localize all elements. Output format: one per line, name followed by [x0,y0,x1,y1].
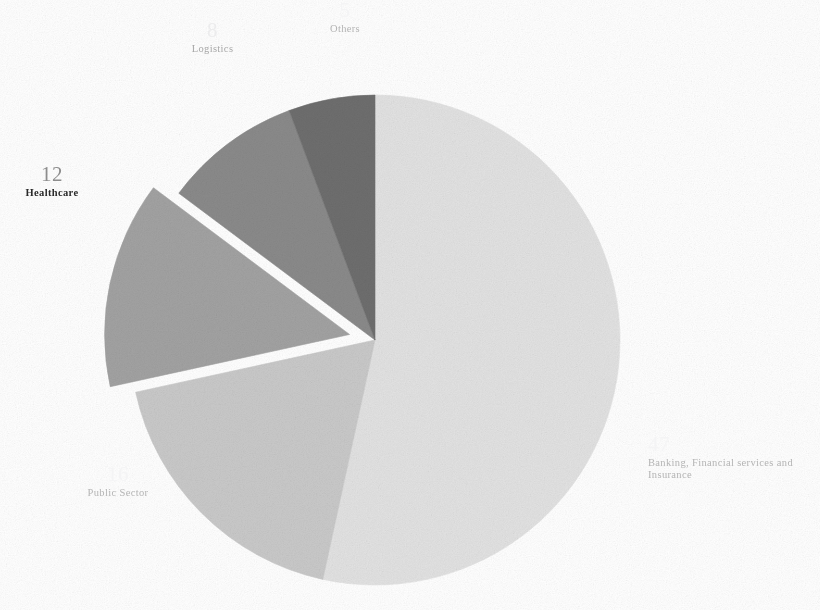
pie-label-bfsi-name: Banking, Financial services and Insuranc… [648,457,813,482]
pie-label-logistics: 8 Logistics [150,18,275,55]
pie-label-logistics-value: 8 [150,18,275,43]
pie-label-others-value: 5 [290,0,400,23]
pie-label-healthcare-name: Healthcare [4,187,100,199]
pie-label-others-name: Others [290,23,400,35]
pie-label-logistics-name: Logistics [150,43,275,55]
pie-chart-canvas [0,0,820,610]
pie-label-public-sector-name: Public Sector [48,487,188,499]
pie-label-others: 5 Others [290,0,400,35]
pie-label-healthcare-value: 12 [4,162,100,187]
pie-label-public-sector: 16 Public Sector [48,462,188,499]
pie-label-healthcare: 12 Healthcare [4,162,100,199]
pie-chart: 5 Others 8 Logistics 12 Healthcare 16 Pu… [0,0,820,610]
pie-label-public-sector-value: 16 [48,462,188,487]
pie-label-bfsi-value: 47 [648,432,813,457]
pie-label-bfsi: 47 Banking, Financial services and Insur… [648,432,813,482]
